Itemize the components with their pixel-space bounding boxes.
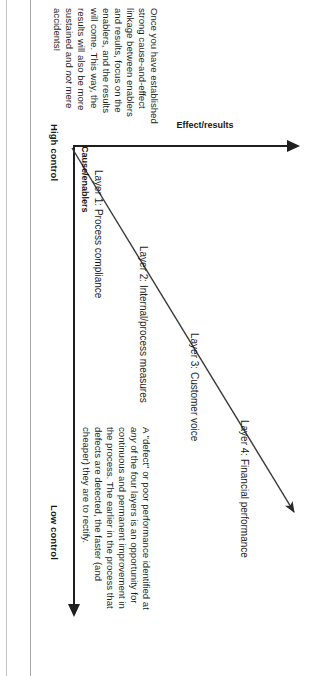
vertical-axis-arrow-icon [287,140,300,152]
layer-label-2: Layer 2: Internal/process measures [138,246,149,403]
axis-label-cause-enablers: Cause/enablers [80,146,90,213]
horizontal-axis-arrow-icon [68,604,80,617]
page-rule-lower [6,0,7,676]
axis-caption-high-control: High control [49,124,60,181]
layer-label-4: Layer 4: Financial performance [239,420,250,558]
note-focus-on-enablers: Once you have established strong cause-a… [51,8,160,128]
note-defect-opportunity: A "defect" or poor performance identifie… [79,427,152,613]
page-rule-upper [30,0,31,676]
axis-caption-low-control: Low control [49,505,60,560]
vertical-axis-line [73,145,288,147]
layer-label-1: Layer 1: Process compliance [93,170,104,298]
axis-label-effect-results: Effect/results [176,120,233,130]
layer-label-3: Layer 3: Customer voice [189,333,200,441]
figure-canvas: High control Low control Cause/enablers … [0,0,328,676]
horizontal-axis-line [73,146,75,609]
scanned-page: High control Low control Cause/enablers … [0,0,328,676]
